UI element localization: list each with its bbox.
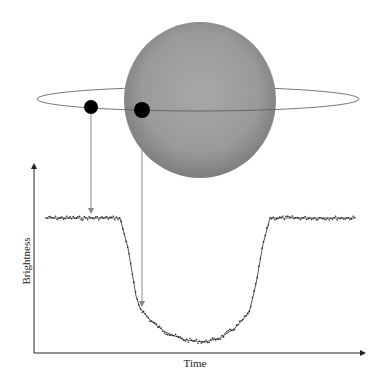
x-axis-label: Time bbox=[170, 357, 220, 369]
data-points bbox=[45, 215, 355, 344]
diagram-canvas bbox=[0, 0, 384, 384]
light-curve bbox=[46, 218, 355, 342]
star-icon bbox=[124, 22, 276, 178]
planet-icon bbox=[84, 100, 98, 114]
y-axis-label: Brightness bbox=[20, 231, 32, 291]
transit-diagram: Brightness Time bbox=[0, 0, 384, 384]
pointer-arrows bbox=[91, 114, 142, 306]
planet-icon bbox=[134, 102, 150, 118]
planets bbox=[84, 100, 150, 118]
